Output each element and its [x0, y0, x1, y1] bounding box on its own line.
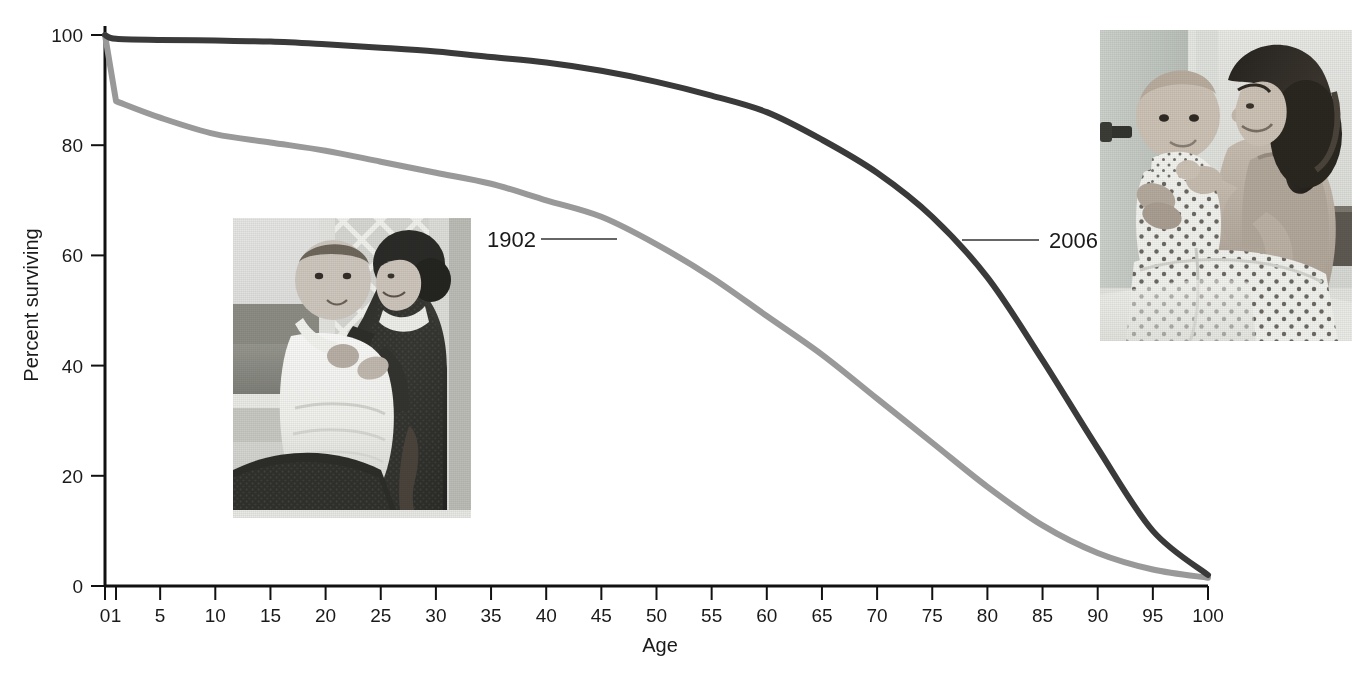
x-tick-label: 25	[370, 605, 391, 626]
y-tick-label: 80	[62, 135, 83, 156]
x-tick-label: 45	[591, 605, 612, 626]
x-tick-label: 100	[1192, 605, 1224, 626]
x-tick-label: 65	[811, 605, 832, 626]
x-tick-label: 1	[111, 605, 122, 626]
x-tick-label: 40	[536, 605, 557, 626]
x-tick-label: 0	[100, 605, 111, 626]
x-tick-label: 75	[922, 605, 943, 626]
annotation-2006: 2006	[962, 228, 1098, 253]
y-tick-label: 100	[51, 25, 83, 46]
x-tick-label: 55	[701, 605, 722, 626]
x-tick-label: 85	[1032, 605, 1053, 626]
x-tick-label: 80	[977, 605, 998, 626]
x-tick-label: 35	[480, 605, 501, 626]
axes-group	[105, 26, 1208, 586]
series-label-2006: 2006	[1049, 228, 1098, 253]
x-tick-label: 30	[425, 605, 446, 626]
y-tick-label: 20	[62, 466, 83, 487]
y-tick-group: 020406080100	[51, 25, 105, 597]
annotation-1902: 1902	[487, 227, 617, 252]
x-tick-group: 0151015202530354045505560657075808590951…	[100, 586, 1224, 626]
x-tick-label: 60	[756, 605, 777, 626]
x-tick-label: 95	[1142, 605, 1163, 626]
series-label-1902: 1902	[487, 227, 536, 252]
y-tick-label: 60	[62, 245, 83, 266]
y-tick-label: 0	[72, 576, 83, 597]
x-axis-title: Age	[642, 634, 678, 656]
y-tick-label: 40	[62, 356, 83, 377]
x-tick-label: 90	[1087, 605, 1108, 626]
chart-canvas: 020406080100 015101520253035404550556065…	[0, 0, 1361, 675]
x-tick-label: 5	[155, 605, 166, 626]
x-tick-label: 20	[315, 605, 336, 626]
curve-2006	[105, 35, 1208, 575]
x-tick-label: 10	[205, 605, 226, 626]
x-tick-label: 15	[260, 605, 281, 626]
curve-1902	[105, 35, 1208, 578]
y-axis-title: Percent surviving	[20, 228, 42, 381]
x-tick-label: 70	[867, 605, 888, 626]
x-tick-label: 50	[646, 605, 667, 626]
series-group	[105, 35, 1208, 578]
survival-curve-figure: 020406080100 015101520253035404550556065…	[0, 0, 1361, 675]
